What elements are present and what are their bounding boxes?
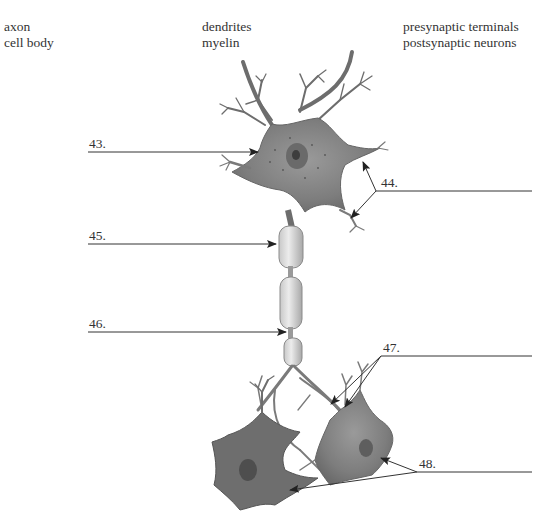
myelin-sheath-2 bbox=[280, 277, 302, 329]
label-47: 47. bbox=[383, 341, 400, 355]
axon bbox=[279, 210, 303, 366]
label-45: 45. bbox=[89, 229, 106, 243]
postsynaptic-neuron-right bbox=[315, 390, 393, 485]
neuron-illustration bbox=[0, 0, 552, 515]
label-48: 48. bbox=[419, 457, 436, 471]
postsynaptic-neuron-left bbox=[212, 412, 318, 510]
label-44: 44. bbox=[381, 176, 398, 190]
label-46: 46. bbox=[89, 317, 106, 331]
cell-body-top bbox=[232, 118, 380, 212]
myelin-sheath-1 bbox=[279, 226, 303, 268]
dendrites-top bbox=[220, 52, 372, 125]
label-43: 43. bbox=[89, 137, 106, 151]
myelin-sheath-3 bbox=[284, 338, 302, 366]
